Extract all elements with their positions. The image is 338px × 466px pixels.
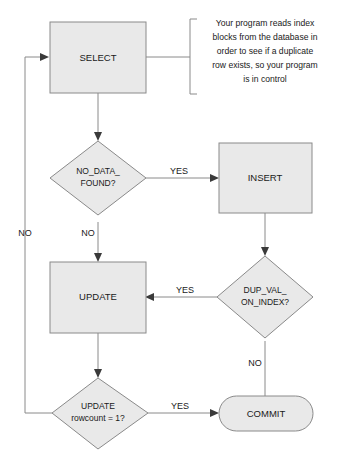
note-line-3: order to see if a duplicate (217, 46, 314, 56)
note-line-4: row exists, so your program (212, 60, 318, 70)
note-line-5: is in control (243, 74, 287, 84)
edge-label-nodatafound-yes: YES (170, 166, 188, 176)
edge-label-rowcount-no: NO (18, 228, 32, 238)
node-update-rowcount-label-line2: rowcount = 1? (71, 413, 125, 423)
edge-label-dupval-yes: YES (176, 285, 194, 295)
edge-label-dupval-no: NO (248, 358, 262, 368)
edge-label-nodatafound-no: NO (81, 228, 95, 238)
note-line-2: blocks from the database in (212, 32, 317, 42)
node-no-data-found-label-line1: NO_DATA_ (76, 166, 120, 176)
flowchart-canvas: SELECT NO_DATA_ FOUND? INSERT DUP_VAL_ O… (0, 0, 338, 466)
arrowhead-select-left (40, 53, 49, 61)
annotation-note: Your program reads index blocks from the… (212, 18, 318, 84)
node-dup-val-label-line1: DUP_VAL_ (244, 285, 287, 295)
node-no-data-found-label-line2: FOUND? (81, 178, 116, 188)
node-dup-val-label-line2: ON_INDEX? (241, 297, 289, 307)
node-insert-label: INSERT (248, 172, 283, 183)
node-select-label: SELECT (80, 52, 117, 63)
node-commit-label: COMMIT (247, 408, 286, 419)
flowchart-diagram: SELECT NO_DATA_ FOUND? INSERT DUP_VAL_ O… (0, 0, 338, 466)
edge-label-rowcount-yes: YES (171, 401, 189, 411)
node-update-label: UPDATE (79, 291, 117, 302)
arrowhead-commit-left (210, 409, 219, 417)
node-update-rowcount-label-line1: UPDATE (81, 401, 115, 411)
arrowhead-dupval-top (261, 247, 269, 256)
arrowhead-nodatafound-top (94, 132, 102, 141)
arrowhead-update-top (94, 253, 102, 262)
note-line-1: Your program reads index (216, 18, 315, 28)
note-bracket (190, 19, 197, 94)
arrowhead-insert-left (210, 174, 219, 182)
arrowhead-rowcount-top (94, 369, 102, 378)
